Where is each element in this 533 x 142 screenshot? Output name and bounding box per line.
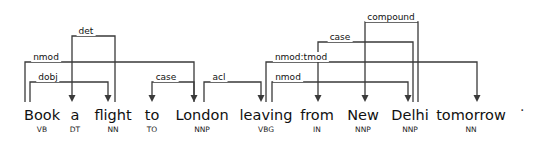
token-form: to xyxy=(145,108,160,123)
arc-label-nmod-tmod: nmod:tmod xyxy=(273,52,329,62)
token-form: New xyxy=(347,108,379,123)
token-book: BookVB xyxy=(24,108,60,134)
token-form: flight xyxy=(94,108,131,123)
token-pos-tag: DT xyxy=(70,125,80,134)
arc-label-nmod: nmod xyxy=(31,52,61,62)
token-london: LondonNNP xyxy=(175,108,228,134)
arc-label-case: case xyxy=(154,72,179,82)
token-leaving: leavingVBG xyxy=(240,108,293,134)
arc-label-dobj: dobj xyxy=(36,72,59,82)
arc-label-compound: compound xyxy=(365,12,417,22)
token-form: Delhi xyxy=(391,108,428,123)
token-form: London xyxy=(175,108,228,123)
token-delhi: DelhiNNP xyxy=(391,108,428,134)
arc-label-nmod: nmod xyxy=(273,72,303,82)
token-to: toTO xyxy=(145,108,160,134)
token-pos-tag: TO xyxy=(145,125,160,134)
token-pos-tag: NNP xyxy=(347,125,379,134)
token-pos-tag: VB xyxy=(24,125,60,134)
token-pos-tag: NN xyxy=(436,125,506,134)
token-layer: BookVBaDTflightNNtoTOLondonNNPleavingVBG… xyxy=(0,0,533,142)
token-pos-tag: NNP xyxy=(391,125,428,134)
arc-label-case: case xyxy=(328,32,353,42)
token-flight: flightNN xyxy=(94,108,131,134)
token-pos-tag: IN xyxy=(300,125,334,134)
sentence-period: . xyxy=(520,98,524,114)
arc-label-det: det xyxy=(77,26,96,36)
token-form: Book xyxy=(24,108,60,123)
token-pos-tag: NN xyxy=(94,125,131,134)
arc-label-acl: acl xyxy=(211,72,228,82)
token-pos-tag: NNP xyxy=(175,125,228,134)
token-form: tomorrow xyxy=(436,108,506,123)
token-pos-tag: VBG xyxy=(240,125,293,134)
token-from: fromIN xyxy=(300,108,334,134)
token-new: NewNNP xyxy=(347,108,379,134)
token-form: leaving xyxy=(240,108,293,123)
token-tomorrow: tomorrowNN xyxy=(436,108,506,134)
token-a: aDT xyxy=(70,108,80,134)
token-form: from xyxy=(300,108,334,123)
token-form: a xyxy=(70,108,80,123)
